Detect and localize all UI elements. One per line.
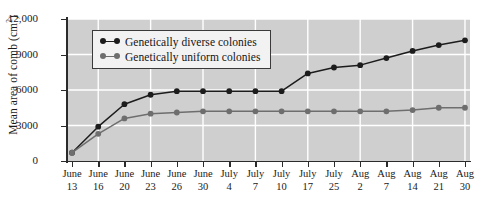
data-point — [383, 55, 389, 61]
data-point — [122, 116, 128, 122]
data-point — [95, 124, 101, 130]
legend-marker-uniform-icon — [100, 52, 120, 62]
data-point — [331, 65, 337, 71]
data-point — [279, 108, 285, 114]
data-point — [410, 107, 416, 113]
data-point — [305, 108, 311, 114]
x-tick-mark — [439, 162, 440, 167]
data-point — [69, 150, 75, 156]
y-tick-mark — [61, 55, 67, 56]
x-tick-mark — [282, 162, 283, 167]
data-point — [148, 111, 154, 117]
data-point — [357, 108, 363, 114]
x-tick-mark — [465, 162, 466, 167]
x-tick-label: Aug30 — [445, 168, 484, 193]
x-axis-tick-labels: June13June16June20June23June26June30July… — [0, 168, 484, 201]
x-tick-month: Aug — [445, 168, 484, 181]
y-tick-mark — [61, 161, 67, 162]
x-axis-line — [66, 161, 471, 163]
x-tick-mark — [255, 162, 256, 167]
y-tick-mark — [61, 90, 67, 91]
data-point — [436, 105, 442, 111]
x-tick-mark — [124, 162, 125, 167]
data-point — [174, 110, 180, 116]
y-tick-label: 6000 — [16, 84, 38, 95]
data-point — [200, 88, 206, 94]
x-tick-mark — [72, 162, 73, 167]
series-line-uniform — [72, 108, 465, 153]
data-point — [357, 62, 363, 68]
y-tick-mark — [61, 126, 67, 127]
data-point — [148, 92, 154, 98]
data-point — [410, 48, 416, 54]
legend-label-diverse: Genetically diverse colonies — [125, 36, 257, 48]
data-point — [226, 88, 232, 94]
legend-label-uniform: Genetically uniform colonies — [125, 51, 261, 63]
data-point — [462, 105, 468, 111]
data-point — [279, 88, 285, 94]
data-point — [122, 101, 128, 107]
data-point — [95, 131, 101, 137]
data-point — [383, 108, 389, 114]
data-point — [253, 108, 259, 114]
x-tick-mark — [386, 162, 387, 167]
chart-legend: Genetically diverse colonies Genetically… — [92, 30, 271, 69]
legend-item-diverse: Genetically diverse colonies — [100, 34, 261, 49]
data-point — [253, 88, 259, 94]
x-tick-mark — [98, 162, 99, 167]
x-tick-mark — [203, 162, 204, 167]
legend-marker-diverse-icon — [100, 37, 120, 47]
chart-figure: Mean area of comb (cm2) 030006000900012,… — [0, 0, 484, 201]
x-tick-mark — [151, 162, 152, 167]
x-tick-mark — [360, 162, 361, 167]
y-tick-mark — [61, 19, 67, 20]
legend-item-uniform: Genetically uniform colonies — [100, 49, 261, 64]
x-tick-mark — [308, 162, 309, 167]
y-tick-label: 3000 — [16, 120, 38, 131]
data-point — [226, 108, 232, 114]
y-tick-label: 9000 — [16, 49, 38, 60]
data-point — [305, 71, 311, 77]
x-tick-mark — [413, 162, 414, 167]
data-point — [174, 88, 180, 94]
y-tick-label: 0 — [33, 155, 39, 166]
data-point — [462, 37, 468, 43]
data-point — [200, 108, 206, 114]
x-tick-mark — [177, 162, 178, 167]
x-tick-mark — [229, 162, 230, 167]
x-tick-mark — [334, 162, 335, 167]
x-tick-day: 30 — [445, 181, 484, 194]
y-tick-label: 12,000 — [8, 13, 38, 24]
data-point — [331, 108, 337, 114]
data-point — [436, 42, 442, 48]
